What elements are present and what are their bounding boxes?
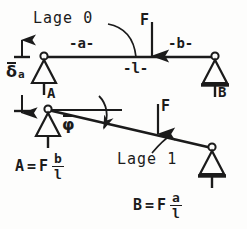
- diagram-canvas: [0, 0, 247, 229]
- beam-diagram-figure: Lage 0 -a- -b- -l- F F A B δ a φ Lage 1 …: [0, 0, 247, 229]
- reaction-a-denominator: l: [52, 166, 64, 181]
- reaction-a-fraction: b l: [52, 152, 64, 181]
- support-a-position1: [36, 113, 60, 148]
- delta-subscript: a: [18, 69, 25, 80]
- support-label-b: B: [218, 85, 226, 99]
- reaction-b-denominator: l: [170, 205, 182, 220]
- force-label-top: F: [140, 13, 149, 28]
- reaction-b-numerator: a: [170, 191, 182, 205]
- support-b-position1: [198, 151, 226, 188]
- phi-symbol: φ: [62, 117, 75, 133]
- reaction-a-lhs: A: [15, 159, 24, 174]
- virtual-rotation-label: φ: [62, 117, 75, 133]
- force-label-bottom: F: [161, 99, 170, 114]
- leader-line-lage0: [108, 24, 136, 57]
- label-lage-1: Lage 1: [117, 152, 177, 167]
- reaction-a-equals: =: [27, 159, 36, 174]
- formula-reaction-a: A = F b l: [15, 152, 64, 181]
- delta-symbol: δ: [6, 64, 17, 80]
- reaction-b-equals: =: [145, 198, 154, 213]
- reaction-a-numerator: b: [52, 152, 64, 166]
- dimension-label-b: -b-: [168, 36, 193, 50]
- reaction-a-factor: F: [39, 159, 48, 174]
- reaction-b-lhs: B: [133, 198, 142, 213]
- support-label-a: A: [47, 86, 55, 100]
- virtual-displacement-label: δ a: [6, 64, 25, 80]
- label-lage-0: Lage 0: [33, 11, 93, 26]
- reaction-b-fraction: a l: [170, 191, 182, 220]
- overbar-phi: [63, 115, 74, 117]
- formula-reaction-b: B = F a l: [133, 191, 182, 220]
- dimension-label-l: -l-: [123, 61, 148, 75]
- dimension-label-a: -a-: [69, 36, 94, 50]
- overbar-delta: [7, 62, 16, 64]
- reaction-b-factor: F: [157, 198, 166, 213]
